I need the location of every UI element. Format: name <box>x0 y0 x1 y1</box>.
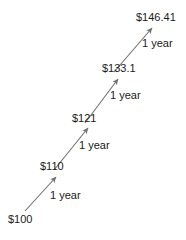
node-value-2: $121 <box>72 112 96 124</box>
node-value-0: $100 <box>8 213 32 225</box>
node-value-3: $133.1 <box>102 62 136 74</box>
edge-duration-3: 1 year <box>142 37 173 49</box>
compound-growth-diagram: $100 $110 $121 $133.1 $146.41 1 year 1 y… <box>0 0 186 240</box>
node-value-4: $146.41 <box>136 11 176 23</box>
edge-duration-0: 1 year <box>50 189 81 201</box>
edge-duration-2: 1 year <box>110 89 141 101</box>
edge-duration-1: 1 year <box>79 139 110 151</box>
node-value-1: $110 <box>40 160 64 172</box>
